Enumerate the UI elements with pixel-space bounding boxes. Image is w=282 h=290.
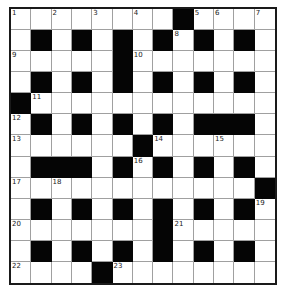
crossword-cell[interactable]	[92, 114, 112, 135]
crossword-cell[interactable]	[153, 93, 173, 114]
crossword-cell[interactable]	[214, 157, 234, 178]
crossword-cell[interactable]	[72, 9, 92, 30]
crossword-cell[interactable]: 22	[11, 262, 31, 283]
crossword-cell[interactable]	[113, 178, 133, 199]
crossword-cell[interactable]	[113, 220, 133, 241]
crossword-cell[interactable]: 21	[173, 220, 193, 241]
crossword-cell[interactable]	[214, 241, 234, 262]
crossword-cell[interactable]	[31, 262, 51, 283]
crossword-cell[interactable]	[92, 157, 112, 178]
crossword-cell[interactable]: 8	[173, 30, 193, 51]
crossword-cell[interactable]	[234, 51, 254, 72]
crossword-cell[interactable]	[255, 262, 275, 283]
crossword-cell[interactable]	[194, 220, 214, 241]
crossword-cell[interactable]	[133, 72, 153, 93]
crossword-cell[interactable]	[173, 114, 193, 135]
crossword-cell[interactable]	[52, 199, 72, 220]
crossword-cell[interactable]	[214, 72, 234, 93]
crossword-cell[interactable]	[234, 135, 254, 156]
crossword-cell[interactable]	[52, 262, 72, 283]
crossword-cell[interactable]	[52, 51, 72, 72]
crossword-cell[interactable]	[113, 9, 133, 30]
crossword-cell[interactable]: 13	[11, 135, 31, 156]
crossword-cell[interactable]	[31, 51, 51, 72]
crossword-cell[interactable]: 12	[11, 114, 31, 135]
crossword-cell[interactable]	[255, 93, 275, 114]
crossword-cell[interactable]	[92, 220, 112, 241]
crossword-cell[interactable]	[234, 220, 254, 241]
crossword-cell[interactable]	[214, 93, 234, 114]
crossword-cell[interactable]	[92, 72, 112, 93]
crossword-cell[interactable]	[133, 220, 153, 241]
crossword-cell[interactable]: 6	[214, 9, 234, 30]
crossword-cell[interactable]	[52, 220, 72, 241]
crossword-cell[interactable]	[92, 30, 112, 51]
crossword-cell[interactable]	[153, 178, 173, 199]
crossword-cell[interactable]	[92, 51, 112, 72]
crossword-cell[interactable]: 16	[133, 157, 153, 178]
crossword-cell[interactable]: 14	[153, 135, 173, 156]
crossword-cell[interactable]	[133, 241, 153, 262]
crossword-cell[interactable]	[153, 51, 173, 72]
crossword-cell[interactable]: 18	[52, 178, 72, 199]
crossword-cell[interactable]	[11, 241, 31, 262]
crossword-cell[interactable]: 5	[194, 9, 214, 30]
crossword-cell[interactable]	[92, 241, 112, 262]
crossword-cell[interactable]	[133, 93, 153, 114]
crossword-cell[interactable]	[133, 262, 153, 283]
crossword-cell[interactable]	[72, 135, 92, 156]
crossword-cell[interactable]	[92, 199, 112, 220]
crossword-cell[interactable]	[31, 9, 51, 30]
crossword-cell[interactable]: 2	[52, 9, 72, 30]
crossword-cell[interactable]	[92, 135, 112, 156]
crossword-cell[interactable]	[173, 199, 193, 220]
crossword-cell[interactable]: 3	[92, 9, 112, 30]
crossword-cell[interactable]	[52, 30, 72, 51]
crossword-cell[interactable]	[194, 135, 214, 156]
crossword-cell[interactable]	[194, 262, 214, 283]
crossword-cell[interactable]	[92, 178, 112, 199]
crossword-cell[interactable]	[214, 51, 234, 72]
crossword-cell[interactable]	[173, 241, 193, 262]
crossword-cell[interactable]	[214, 262, 234, 283]
crossword-cell[interactable]: 20	[11, 220, 31, 241]
crossword-cell[interactable]	[113, 93, 133, 114]
crossword-cell[interactable]	[255, 72, 275, 93]
crossword-cell[interactable]	[255, 114, 275, 135]
crossword-cell[interactable]	[173, 262, 193, 283]
crossword-cell[interactable]	[173, 93, 193, 114]
crossword-cell[interactable]: 1	[11, 9, 31, 30]
crossword-cell[interactable]	[173, 178, 193, 199]
crossword-cell[interactable]	[31, 220, 51, 241]
crossword-cell[interactable]	[31, 135, 51, 156]
crossword-cell[interactable]: 23	[113, 262, 133, 283]
crossword-cell[interactable]	[11, 30, 31, 51]
crossword-cell[interactable]	[113, 135, 133, 156]
crossword-cell[interactable]	[52, 72, 72, 93]
crossword-cell[interactable]: 4	[133, 9, 153, 30]
crossword-cell[interactable]	[255, 30, 275, 51]
crossword-cell[interactable]	[214, 178, 234, 199]
crossword-cell[interactable]	[255, 135, 275, 156]
crossword-cell[interactable]	[214, 220, 234, 241]
crossword-cell[interactable]	[234, 262, 254, 283]
crossword-cell[interactable]	[173, 157, 193, 178]
crossword-cell[interactable]	[72, 93, 92, 114]
crossword-cell[interactable]: 17	[11, 178, 31, 199]
crossword-cell[interactable]	[52, 135, 72, 156]
crossword-cell[interactable]: 9	[11, 51, 31, 72]
crossword-cell[interactable]	[52, 241, 72, 262]
crossword-cell[interactable]	[194, 93, 214, 114]
crossword-cell[interactable]	[52, 93, 72, 114]
crossword-cell[interactable]	[11, 199, 31, 220]
crossword-cell[interactable]	[173, 135, 193, 156]
crossword-cell[interactable]	[52, 114, 72, 135]
crossword-cell[interactable]	[194, 178, 214, 199]
crossword-cell[interactable]: 15	[214, 135, 234, 156]
crossword-cell[interactable]	[255, 51, 275, 72]
crossword-cell[interactable]	[234, 178, 254, 199]
crossword-cell[interactable]	[234, 93, 254, 114]
crossword-cell[interactable]	[153, 262, 173, 283]
crossword-cell[interactable]	[255, 241, 275, 262]
crossword-cell[interactable]	[194, 51, 214, 72]
